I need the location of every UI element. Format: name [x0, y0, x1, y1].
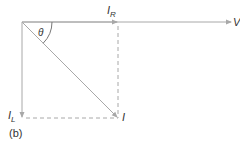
panel-label: (b) — [9, 127, 22, 139]
resistive-current-label: IR — [107, 4, 116, 19]
angle-label: θ — [38, 27, 44, 38]
inductive-current-label: IL — [8, 109, 16, 124]
total-current-vector — [22, 22, 117, 117]
voltage-label: V — [233, 16, 240, 28]
angle-arc — [43, 22, 52, 43]
total-current-label: I — [122, 111, 125, 123]
phasor-diagram: θ IR V IL I (b) — [0, 0, 240, 152]
